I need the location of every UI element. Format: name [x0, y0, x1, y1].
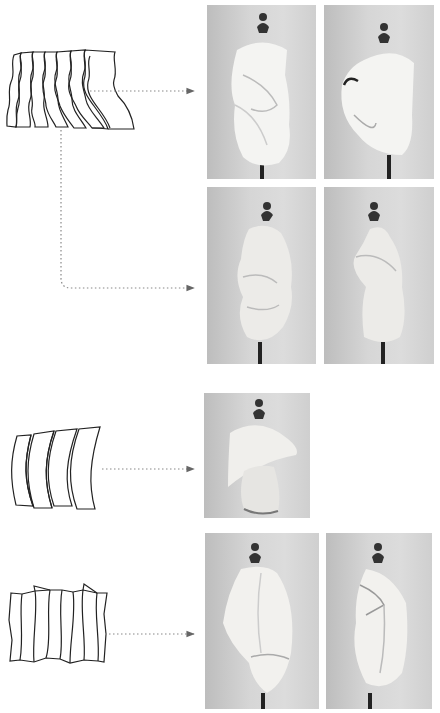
photo-1d-draped-side-right	[324, 187, 434, 364]
pattern-zigzag-panels	[9, 584, 107, 663]
photo-1b-draped-three-quarter	[324, 5, 434, 179]
photo-2a-draped-front	[204, 393, 310, 518]
photo-1a-draped-front	[207, 5, 316, 179]
pattern-wavy-strips	[7, 50, 134, 129]
photo-1c-draped-side-left	[207, 187, 316, 364]
photo-3b-draped-side	[326, 533, 432, 709]
photo-3a-draped-front	[205, 533, 319, 709]
arrow-to-photos-row-2	[61, 130, 194, 288]
pattern-curved-panels	[12, 427, 100, 509]
